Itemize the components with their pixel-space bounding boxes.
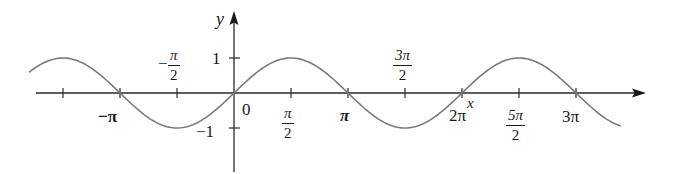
- y-tick-label-1: 1: [212, 50, 221, 67]
- frac-numerator: 5π: [506, 108, 525, 126]
- x-tick-label-three-pi-half: 3π 2: [393, 48, 412, 83]
- frac-numerator: π: [282, 106, 294, 124]
- y-axis-label: y: [216, 10, 224, 28]
- y-tick-label-neg1: −1: [196, 123, 214, 140]
- x-tick-label-neg-pi-half-sign: −: [158, 54, 168, 74]
- frac-denominator: 2: [393, 66, 412, 83]
- sine-graph: [0, 0, 676, 174]
- x-tick-label-neg-pi: −π: [98, 108, 117, 125]
- origin-label: 0: [242, 101, 251, 118]
- x-axis-label: x: [467, 96, 474, 111]
- x-tick-label-pi: π: [340, 107, 349, 124]
- x-tick-label-two-pi: 2π: [449, 107, 466, 124]
- x-tick-label-neg-pi-half: π 2: [168, 48, 180, 83]
- frac-denominator: 2: [168, 66, 180, 83]
- x-tick-label-pi-half: π 2: [282, 106, 294, 141]
- frac-numerator: π: [168, 48, 180, 66]
- frac-numerator: 3π: [393, 48, 412, 66]
- x-tick-label-five-pi-half: 5π 2: [506, 108, 525, 143]
- frac-denominator: 2: [506, 126, 525, 143]
- x-tick-label-three-pi: 3π: [562, 108, 579, 125]
- frac-denominator: 2: [282, 124, 294, 141]
